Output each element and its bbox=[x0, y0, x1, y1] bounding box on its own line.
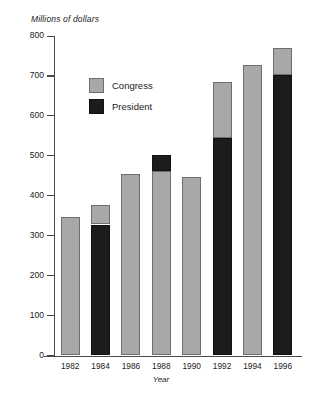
y-tick-label: 100 bbox=[30, 311, 44, 320]
legend-swatch-president-icon bbox=[89, 99, 104, 114]
x-tick-label-1982: 1982 bbox=[54, 361, 86, 371]
x-axis-title: Year bbox=[0, 375, 322, 384]
legend-swatch-congress-icon bbox=[89, 78, 104, 93]
bar-segment-president-1996 bbox=[273, 75, 292, 355]
bar-segment-congress-1984 bbox=[91, 205, 110, 225]
y-axis-title: Millions of dollars bbox=[31, 14, 99, 24]
bar-segment-president-1992 bbox=[213, 138, 232, 356]
y-tick-mark bbox=[47, 315, 55, 316]
x-tick-label-1996: 1996 bbox=[267, 361, 299, 371]
y-tick-mark bbox=[47, 355, 55, 356]
y-tick-mark bbox=[47, 115, 55, 116]
bar-1996 bbox=[273, 36, 292, 356]
bar-1982 bbox=[61, 36, 80, 356]
legend-label: Congress bbox=[112, 81, 153, 91]
y-tick-mark bbox=[47, 275, 55, 276]
bar-segment-president-1984 bbox=[91, 225, 110, 356]
x-tick-label-1988: 1988 bbox=[145, 361, 177, 371]
bar-1994 bbox=[243, 36, 262, 356]
legend-label: President bbox=[112, 102, 152, 112]
y-tick-mark bbox=[47, 36, 55, 37]
bar-1992 bbox=[213, 36, 232, 356]
y-tick-label: 0 bbox=[39, 351, 44, 360]
bar-segment-congress-1996 bbox=[273, 48, 292, 75]
x-tick-label-1986: 1986 bbox=[115, 361, 147, 371]
y-tick-mark bbox=[47, 235, 55, 236]
bar-segment-congress-1990 bbox=[182, 177, 201, 356]
x-tick-label-1990: 1990 bbox=[176, 361, 208, 371]
x-tick-label-1984: 1984 bbox=[85, 361, 117, 371]
bar-segment-congress-1992 bbox=[213, 82, 232, 138]
bar-segment-congress-1994 bbox=[243, 65, 262, 355]
y-tick-label: 200 bbox=[30, 271, 44, 280]
bar-segment-congress-1986 bbox=[121, 174, 140, 356]
bar-1988 bbox=[152, 36, 171, 356]
bar-segment-congress-1982 bbox=[61, 217, 80, 355]
y-tick-mark bbox=[47, 195, 55, 196]
bar-1990 bbox=[182, 36, 201, 356]
y-tick-label: 500 bbox=[30, 151, 44, 160]
y-tick-mark bbox=[47, 155, 55, 156]
y-tick-label: 700 bbox=[30, 71, 44, 80]
y-tick-label: 300 bbox=[30, 231, 44, 240]
x-tick-label-1992: 1992 bbox=[206, 361, 238, 371]
y-tick-label: 400 bbox=[30, 191, 44, 200]
bar-segment-congress-1988 bbox=[152, 171, 171, 356]
y-tick-label: 600 bbox=[30, 111, 44, 120]
legend-item-president: President bbox=[89, 99, 153, 114]
x-tick-label-1994: 1994 bbox=[236, 361, 268, 371]
y-tick-label: 800 bbox=[30, 31, 44, 40]
chart-legend: CongressPresident bbox=[89, 78, 153, 120]
legend-item-congress: Congress bbox=[89, 78, 153, 93]
bar-segment-president-1988 bbox=[152, 155, 171, 171]
y-tick-mark bbox=[47, 75, 55, 76]
bar-chart: Millions of dollars 80070060050040030020… bbox=[0, 0, 322, 399]
